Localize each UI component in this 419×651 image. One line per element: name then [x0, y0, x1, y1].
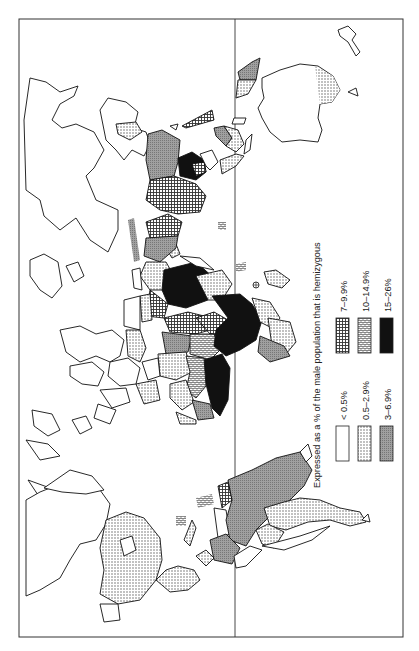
legend-title: Expressed as a % of the male population …	[312, 242, 322, 488]
legend-swatch-black	[380, 318, 393, 353]
legend-swatch-grid	[336, 318, 349, 353]
legend-swatch-white	[336, 426, 349, 461]
region-europe	[26, 326, 160, 460]
legend-label-1: 0.5–2.9%	[361, 381, 371, 420]
region-south-america	[210, 444, 370, 568]
region-australia	[258, 26, 360, 142]
legend-swatch-fine-dots	[358, 426, 371, 461]
world-map: Expressed as a % of the male population …	[0, 0, 419, 651]
region-asia	[24, 78, 218, 262]
legend: Expressed as a % of the male population …	[312, 242, 393, 488]
legend-label-3: 7–9.9%	[339, 281, 349, 312]
legend-label-2: 3–6.9%	[383, 389, 393, 420]
legend-label-5: 15–26%	[383, 278, 393, 312]
legend-label-4: 10–14.9%	[361, 271, 371, 312]
legend-swatch-grey	[380, 426, 393, 461]
legend-label-0: < 0.5%	[339, 391, 349, 420]
legend-swatch-bricks	[358, 318, 371, 353]
region-north-america	[26, 470, 214, 622]
